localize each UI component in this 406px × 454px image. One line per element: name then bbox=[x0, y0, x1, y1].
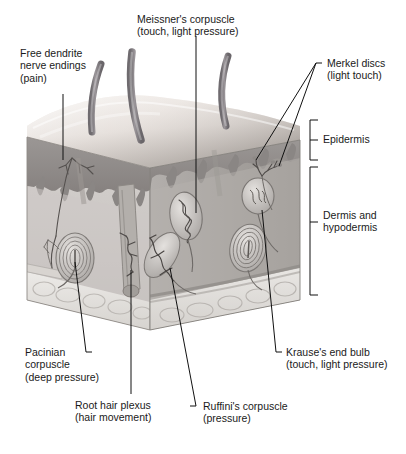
leader-ruffini bbox=[170, 268, 196, 406]
label-merkel: Merkel discs (light touch) bbox=[327, 57, 385, 82]
bracket-epidermis bbox=[310, 120, 318, 160]
label-krause: Krause's end bulb (touch, light pressure… bbox=[286, 346, 388, 371]
label-dermis-hypodermis: Dermis and hypodermis bbox=[323, 209, 377, 234]
label-meissner: Meissner's corpuscle (touch, light press… bbox=[137, 13, 239, 38]
label-pacinian: Pacinian corpuscle (deep pressure) bbox=[25, 346, 99, 383]
leader-krause bbox=[262, 210, 276, 352]
label-epidermis: Epidermis bbox=[323, 133, 370, 145]
leader-pacinian bbox=[75, 262, 86, 352]
bracket-dermis-hypodermis bbox=[310, 167, 318, 295]
label-ruffini: Ruffini's corpuscle (pressure) bbox=[203, 400, 288, 425]
label-root-hair-plexus: Root hair plexus (hair movement) bbox=[75, 399, 151, 424]
skin-receptors-figure: Free dendrite nerve endings (pain) Meiss… bbox=[0, 0, 406, 454]
label-free-dendrite: Free dendrite nerve endings (pain) bbox=[20, 47, 86, 84]
